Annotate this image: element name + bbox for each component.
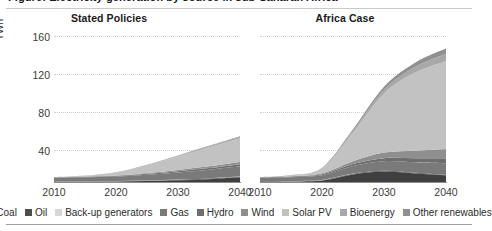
legend-item-label: Bioenergy [350,207,395,218]
x-tick-right-2020: 2020 [302,186,342,198]
x-tick-left-2010: 2010 [34,186,74,198]
x-tick-left-2030: 2030 [158,186,198,198]
y-tick-160: 160 [16,31,50,43]
area-series-stated-policies [54,20,240,182]
x-tick-left-2020: 2020 [96,186,136,198]
legend-item[interactable]: Wind [241,207,274,218]
legend-item-label: Oil [35,207,47,218]
x-tick-right-2040: 2040 [426,186,466,198]
legend-swatch-icon [340,209,347,216]
panel-stated-policies: Stated Policies TWh 160 120 80 40 2010 2… [0,10,250,200]
area-series-africa-case [260,20,446,182]
legend-item-label: Back-up generators [65,207,152,218]
chart-legend: CoalOilBack-up generatorsGasHydroWindSol… [0,203,478,221]
legend-item-label: Wind [251,207,274,218]
legend-swatch-icon [160,209,167,216]
legend-swatch-icon [403,209,410,216]
legend-item-label: Coal [0,207,17,218]
legend-divider [6,224,472,225]
x-tick-right-2030: 2030 [364,186,404,198]
legend-swatch-icon [241,209,248,216]
plot-area-stated-policies [54,20,240,182]
y-tick-120: 120 [16,69,50,81]
legend-item[interactable]: Other renewables [403,207,492,218]
y-axis-ticks: 160 120 80 40 [0,10,50,200]
legend-item[interactable]: Back-up generators [55,207,152,218]
legend-swatch-icon [25,209,32,216]
legend-item[interactable]: Solar PV [282,207,331,218]
title-divider [6,8,472,9]
legend-item-label: Other renewables [413,207,492,218]
legend-item-label: Hydro [207,207,234,218]
y-tick-40: 40 [16,145,50,157]
y-tick-80: 80 [16,107,50,119]
x-tick-right-2010: 2010 [240,186,280,198]
legend-swatch-icon [197,209,204,216]
figure-title: Figure: Electricity generation by source… [8,0,338,3]
legend-item[interactable]: Gas [160,207,188,218]
legend-item[interactable]: Bioenergy [340,207,395,218]
x-axis-line-right [260,182,447,183]
legend-item-label: Solar PV [292,207,331,218]
x-axis-line-left [54,182,241,183]
legend-item[interactable]: Coal [0,207,17,218]
panel-africa-case: Africa Case 2010 2020 2030 2040 [250,10,478,200]
legend-swatch-icon [55,209,62,216]
legend-item[interactable]: Oil [25,207,47,218]
legend-swatch-icon [282,209,289,216]
plot-area-africa-case [260,20,446,182]
figure-title-strip: Figure: Electricity generation by source… [0,0,478,7]
legend-item-label: Gas [170,207,188,218]
legend-item[interactable]: Hydro [197,207,234,218]
chart-panels: Stated Policies TWh 160 120 80 40 2010 2… [0,10,478,200]
